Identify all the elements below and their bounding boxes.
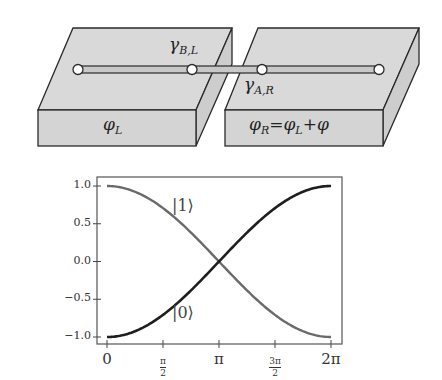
x-tick-label: 0	[87, 350, 127, 368]
denominator: 2	[272, 369, 278, 378]
ket-0-label: |0⟩	[172, 303, 194, 322]
nanowire-body	[78, 66, 379, 73]
x-tick-label: π2	[143, 349, 183, 378]
left-superconductor-slab	[38, 28, 232, 146]
equals-sign: =	[269, 114, 283, 134]
gamma-subscript: B,L	[179, 44, 198, 57]
phi-symbol: φ	[317, 114, 329, 134]
y-tick-label: −0.5	[31, 291, 91, 304]
left-slab-phase-label: φL	[103, 114, 122, 137]
phi-R-symbol: φ	[249, 114, 261, 134]
phi-symbol: φ	[103, 114, 115, 134]
y-tick-label: 0.0	[31, 254, 91, 267]
x-tick-label: 2π	[311, 350, 351, 368]
fraction: 3π2	[269, 357, 281, 378]
y-tick-label: −1.0	[31, 329, 91, 342]
phi-L-subscript: L	[295, 124, 302, 137]
ket-1-label: |1⟩	[172, 196, 194, 215]
phi-R-subscript: R	[261, 124, 269, 137]
y-tick-label: 1.0	[31, 178, 91, 191]
nanowire	[73, 65, 384, 75]
gamma-AR-label: γA,R	[244, 74, 274, 97]
numerator: 3π	[269, 357, 281, 366]
majorana-node-right-outer	[374, 65, 384, 75]
majorana-node-gamma-AR	[257, 65, 267, 75]
denominator: 2	[160, 369, 166, 378]
right-slab-phase-label: φR=φL+φ	[249, 114, 329, 137]
x-tick-label: π	[199, 350, 239, 368]
gamma-subscript: A,R	[254, 84, 274, 97]
phi-subscript: L	[115, 124, 122, 137]
fraction: π2	[160, 357, 166, 378]
gamma-symbol: γ	[244, 74, 254, 94]
phi-L-symbol: φ	[283, 114, 295, 134]
plus-sign: +	[303, 114, 317, 134]
plot	[93, 177, 342, 348]
numerator: π	[160, 357, 166, 366]
figure: φL φR=φL+φ γB,L γA,R |1⟩ |0⟩ 1.00.50.0−0…	[0, 0, 442, 380]
gamma-symbol: γ	[169, 34, 179, 54]
majorana-node-left-outer	[73, 65, 83, 75]
series-ket-0-curve	[107, 186, 331, 337]
y-tick-label: 0.5	[31, 216, 91, 229]
majorana-node-gamma-BL	[187, 65, 197, 75]
gamma-BL-label: γB,L	[169, 34, 198, 57]
x-tick-label: 3π2	[255, 349, 295, 378]
